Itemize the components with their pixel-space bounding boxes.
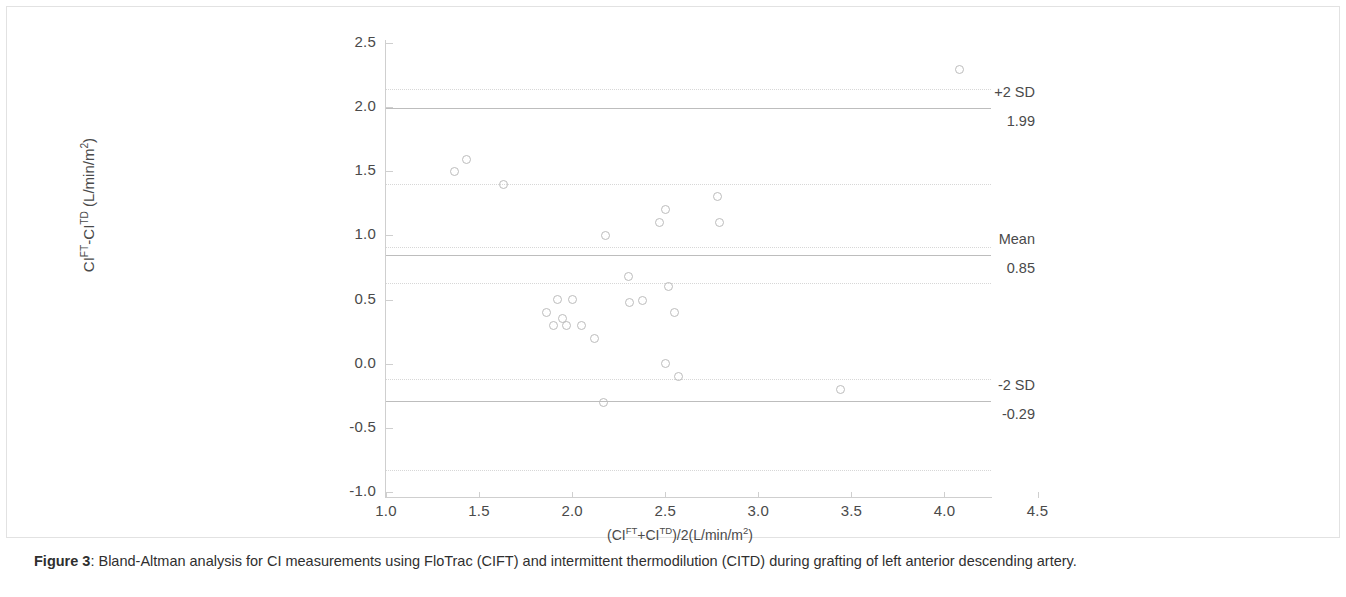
data-point	[553, 295, 562, 304]
x-axis-title-mid: +CI	[637, 527, 659, 543]
data-point	[661, 205, 670, 214]
reference-line-mean	[386, 255, 991, 256]
x-tick-label: 1.5	[454, 502, 504, 519]
annotation-label-mean: Mean	[895, 231, 1035, 247]
x-tick-4.0	[944, 492, 945, 498]
y-tick-label: -1.0	[330, 482, 376, 499]
data-point	[655, 218, 664, 227]
data-point	[568, 295, 577, 304]
y-axis-title-post: (L/min/m	[80, 149, 97, 212]
data-point	[462, 155, 471, 164]
x-tick-1.0	[386, 492, 387, 498]
x-tick-label: 2.0	[547, 502, 597, 519]
x-axis-title-end: )	[748, 527, 753, 543]
x-tick-label: 3.0	[733, 502, 783, 519]
data-point	[836, 385, 845, 394]
x-axis-title-sup-ft: FT	[626, 525, 638, 536]
x-axis-line	[385, 497, 992, 498]
annotation-value-minus-2-sd: -0.29	[895, 406, 1035, 422]
figure-caption: Figure 3: Bland-Altman analysis for CI m…	[34, 551, 1324, 571]
annotation-value-plus-2-sd: 1.99	[895, 113, 1035, 129]
reference-line-lower-outer	[386, 470, 991, 471]
x-tick-label: 1.0	[361, 502, 411, 519]
data-point	[599, 398, 608, 407]
x-axis-title-sup-td: TD	[660, 525, 673, 536]
reference-line-upper-inner	[386, 184, 991, 185]
y-tick-label: 2.5	[330, 33, 376, 50]
figure-caption-text: Bland-Altman analysis for CI measurement…	[98, 553, 1076, 569]
data-point	[542, 308, 551, 317]
reference-line-mean-upper	[386, 247, 991, 248]
y-tick-label: 2.0	[330, 97, 376, 114]
reference-line-minus-2-sd	[386, 401, 991, 402]
x-tick-label: 4.5	[1013, 502, 1063, 519]
data-point	[562, 321, 571, 330]
data-point	[590, 334, 599, 343]
x-tick-3.5	[851, 492, 852, 498]
data-point	[625, 298, 634, 307]
data-point	[549, 321, 558, 330]
data-point	[661, 359, 670, 368]
data-point	[674, 372, 683, 381]
x-tick-2.5	[665, 492, 666, 498]
x-tick-label: 4.0	[919, 502, 969, 519]
data-point	[499, 180, 508, 189]
reference-line-plus-2-sd	[386, 108, 991, 109]
annotation-label-minus-2-sd: -2 SD	[895, 377, 1035, 393]
data-point	[715, 218, 724, 227]
y-tick-label: 0.5	[330, 290, 376, 307]
annotation-label-plus-2-sd: +2 SD	[895, 84, 1035, 100]
y-axis-title-pre: CI	[80, 257, 97, 272]
y-axis-title-end: )	[80, 138, 97, 143]
y-axis-title: CIFT-CITD (L/min/m2)	[79, 55, 97, 355]
x-tick-label: 2.5	[640, 502, 690, 519]
data-point	[450, 167, 459, 176]
data-point	[713, 192, 722, 201]
data-point	[577, 321, 586, 330]
y-axis-title-sup-ft: FT	[79, 245, 90, 257]
data-point	[624, 272, 633, 281]
data-point	[670, 308, 679, 317]
x-axis-title-pre: (CI	[607, 527, 626, 543]
reference-line-mean-lower	[386, 283, 991, 284]
y-axis-title-sup-td: TD	[79, 211, 90, 225]
x-tick-label: 3.5	[826, 502, 876, 519]
x-tick-2.0	[572, 492, 573, 498]
x-tick-4.5	[1038, 492, 1039, 498]
annotation-value-mean: 0.85	[895, 260, 1035, 276]
data-point	[664, 282, 673, 291]
x-tick-3.0	[758, 492, 759, 498]
data-point	[638, 296, 647, 305]
data-point	[601, 231, 610, 240]
figure-page: 2.52.01.51.00.50.0-0.5-1.0 1.01.52.02.53…	[0, 0, 1346, 597]
x-tick-1.5	[479, 492, 480, 498]
x-axis-title: (CIFT+CITD)/2(L/min/m2)	[470, 525, 890, 543]
bland-altman-figure: 2.52.01.51.00.50.0-0.5-1.0 1.01.52.02.53…	[0, 0, 1346, 540]
y-tick-label: 1.0	[330, 225, 376, 242]
x-axis-title-post: )/2(L/min/m	[672, 527, 743, 543]
y-tick-label: 1.5	[330, 161, 376, 178]
y-tick-label: 0.0	[330, 354, 376, 371]
y-tick--1.0	[386, 492, 393, 493]
y-axis-title-sup-sq: 2	[79, 143, 90, 149]
figure-caption-label: Figure 3	[34, 553, 90, 569]
data-point	[955, 65, 964, 74]
y-tick-label: -0.5	[330, 418, 376, 435]
y-axis-title-mid: -CI	[80, 225, 97, 245]
